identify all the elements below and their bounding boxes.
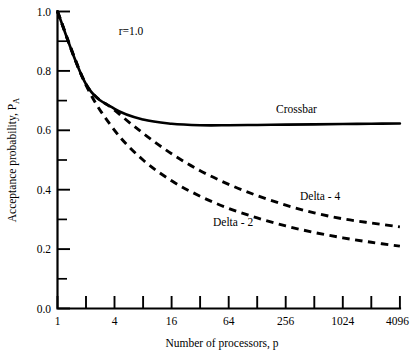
y-tick-label-0.6: 0.6 [37,124,52,136]
y-axis-labels: 0.0 0.2 0.4 0.6 0.8 1.0 [37,6,52,315]
x-axis-ticks [58,296,400,309]
x-tick-label-4: 4 [112,315,118,327]
y-axis-title-main: Acceptance probability, P [6,104,19,222]
x-tick-label-256: 256 [277,315,295,327]
y-tick-label-1.0: 1.0 [37,6,52,18]
x-tick-label-16: 16 [166,315,178,327]
curve-label-crossbar: Crossbar [276,103,317,115]
y-axis-title-subscript: A [11,97,21,104]
x-axis-title: Number of processors, p [165,337,278,350]
axes-group [58,11,401,309]
x-axis-labels: 1 4 16 64 256 1024 4096 [55,315,410,327]
curve-crossbar [58,12,400,126]
y-tick-label-0.8: 0.8 [37,65,52,77]
chart-canvas: 0.0 0.2 0.4 0.6 0.8 1.0 1 4 1 [0,0,413,358]
curve-label-delta-2: Delta - 2 [213,216,253,228]
annotation-r-value: r=1.0 [119,25,144,37]
y-tick-label-0.4: 0.4 [37,184,52,196]
y-tick-label-0.0: 0.0 [37,303,52,315]
x-tick-label-64: 64 [223,315,235,327]
chart-figure: 0.0 0.2 0.4 0.6 0.8 1.0 1 4 1 [0,0,413,358]
y-axis-ticks [58,12,71,309]
y-axis-title: Acceptance probability, PA [6,97,21,222]
curve-label-delta-4: Delta - 4 [300,190,340,202]
curve-delta-2 [58,12,400,247]
y-tick-label-0.2: 0.2 [37,243,52,255]
axis-lines [58,11,401,309]
x-tick-label-4096: 4096 [386,315,409,327]
y-axis-title-group: Acceptance probability, PA [6,97,21,222]
x-tick-label-1: 1 [55,315,61,327]
x-tick-label-1024: 1024 [331,315,354,327]
curve-delta-4 [58,12,400,227]
